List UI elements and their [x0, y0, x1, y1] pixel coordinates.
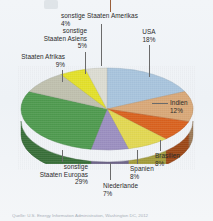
- slice-label-spanien-pct: 8%: [130, 173, 172, 181]
- slice-label-amerikas: sonstige Staaten Amerikas 4%: [61, 12, 181, 27]
- slice-label-spanien: Spanien 8%: [130, 165, 172, 180]
- slice-label-niederlande: Niederlande 7%: [103, 182, 159, 197]
- slice-label-europas-pct: 29%: [16, 178, 88, 186]
- clipped-top-leader-line: [110, 0, 111, 12]
- leader-line-afrikas: [62, 70, 63, 82]
- slice-label-usa-text: USA: [142, 28, 155, 35]
- slice-label-afrikas-pct: 9%: [7, 61, 65, 69]
- slice-label-indien: Indien 12%: [170, 99, 210, 114]
- slice-label-brasilien-text: Brasilien: [155, 152, 180, 159]
- slice-label-usa: USA 18%: [128, 28, 170, 43]
- leader-line-amerikas: [101, 24, 102, 66]
- slice-label-indien-text: Indien: [170, 99, 188, 106]
- slice-label-asiens-text1: sonstige: [63, 27, 87, 34]
- slice-label-afrikas: Staaten Afrikas 9%: [7, 53, 65, 68]
- slice-label-afrikas-text: Staaten Afrikas: [21, 53, 65, 60]
- slice-label-asiens: sonstige Staaten Asiens 5%: [31, 27, 87, 50]
- slice-label-niederlande-pct: 7%: [103, 190, 159, 198]
- leader-line-indien: [152, 103, 168, 104]
- slice-label-niederlande-text: Niederlande: [103, 182, 138, 189]
- slice-label-asiens-text2: Staaten Asiens: [31, 35, 87, 43]
- slice-label-europas-text1: sonstige: [64, 163, 88, 170]
- slice-label-indien-pct: 12%: [170, 107, 210, 115]
- clipped-top-artifact: [44, 0, 58, 9]
- leader-line-brasilien: [160, 140, 161, 151]
- leader-line-asiens: [85, 52, 86, 74]
- slice-label-usa-pct: 18%: [128, 36, 170, 44]
- leader-line-niederlande: [110, 163, 111, 180]
- slice-label-europas: sonstige Staaten Europas 29%: [16, 163, 88, 186]
- slice-label-europas-text2: Staaten Europas: [16, 171, 88, 179]
- pie-chart-figure: sonstige Staaten Amerikas 4% USA 18% son…: [0, 0, 213, 221]
- slice-label-amerikas-text: sonstige Staaten Amerikas: [61, 12, 138, 19]
- leader-line-europas: [62, 150, 63, 162]
- leader-line-usa: [149, 45, 150, 77]
- slice-label-spanien-text: Spanien: [130, 165, 154, 172]
- leader-line-spanien: [137, 150, 138, 164]
- source-note: Quelle: U.S. Energy Information Administ…: [12, 213, 148, 219]
- slice-label-asiens-pct: 5%: [31, 42, 87, 50]
